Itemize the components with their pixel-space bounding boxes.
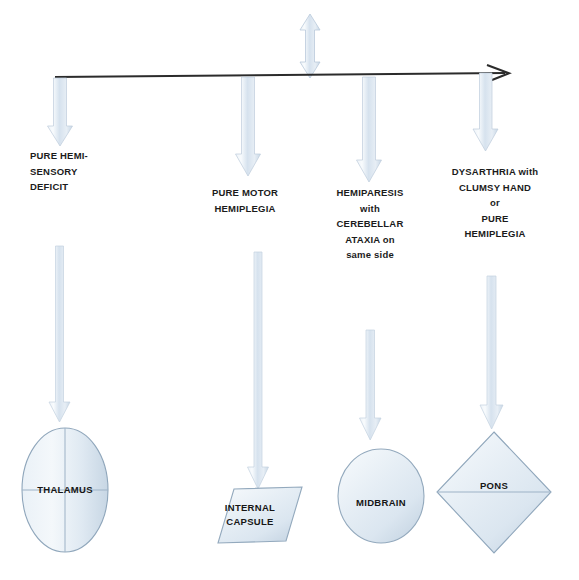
branch-2-drop-arrow-icon <box>236 77 261 176</box>
site-label-line: INTERNAL <box>205 501 295 515</box>
lacunar-syndrome-diagram: PURE HEMI- SENSORY DEFICIT PURE MOTOR HE… <box>0 0 579 580</box>
site-label-line: MIDBRAIN <box>336 496 426 510</box>
syndrome-label-branch-4: DYSARTHRIA with CLUMSY HAND or PURE HEMI… <box>420 164 570 242</box>
syndrome-line: PURE <box>420 211 570 227</box>
branch-1-long-arrow-icon <box>49 246 70 422</box>
syndrome-line: SENSORY <box>30 164 88 180</box>
syndrome-line: HEMIPLEGIA <box>420 226 570 242</box>
syndrome-line: or <box>420 195 570 211</box>
branch-2-long-arrow-icon <box>248 252 269 489</box>
site-label-pons: PONS <box>459 479 529 493</box>
syndrome-line: PURE HEMI- <box>30 148 88 164</box>
syndrome-line: DEFICIT <box>30 179 88 195</box>
branch-1-drop-arrow-icon <box>48 78 73 146</box>
site-label-internal-capsule: INTERNAL CAPSULE <box>205 501 295 529</box>
branch-3-long-arrow-icon <box>360 330 382 440</box>
site-label-midbrain: MIDBRAIN <box>336 496 426 510</box>
syndrome-line: CLUMSY HAND <box>420 180 570 196</box>
branch-4-drop-arrow-icon <box>473 73 498 151</box>
branch-3-drop-arrow-icon <box>357 77 382 182</box>
syndrome-line: DYSARTHRIA with <box>420 164 570 180</box>
syndrome-line: same side <box>290 247 450 263</box>
site-label-line: THALAMUS <box>10 483 120 497</box>
site-label-line: CAPSULE <box>205 515 295 529</box>
branch-4-long-arrow-icon <box>480 276 503 429</box>
site-label-thalamus: THALAMUS <box>10 483 120 497</box>
top-double-arrow-icon <box>300 14 320 78</box>
horizontal-axis-arrow-icon <box>55 65 509 82</box>
syndrome-label-branch-1: PURE HEMI- SENSORY DEFICIT <box>30 148 88 195</box>
site-label-line: PONS <box>459 479 529 493</box>
